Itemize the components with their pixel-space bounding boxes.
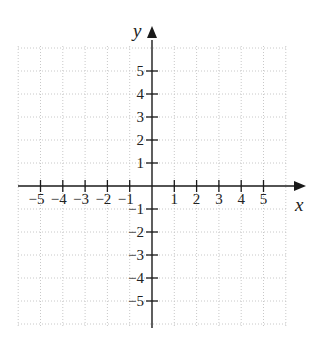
- y-tick-label: 2: [137, 132, 145, 148]
- x-tick-label: −4: [51, 191, 67, 207]
- y-axis-arrow-icon: [147, 26, 157, 38]
- y-tick-label: 3: [137, 109, 145, 125]
- y-tick-label: 5: [137, 63, 145, 79]
- coordinate-plane: −5−4−3−2−11234554321−1−2−3−4−5 x y: [0, 0, 321, 352]
- x-axis-arrow-icon: [294, 181, 306, 191]
- x-tick-label: −5: [29, 191, 45, 207]
- y-tick-label: −3: [128, 247, 144, 263]
- x-tick-label: −3: [73, 191, 89, 207]
- x-tick-label: 5: [260, 191, 268, 207]
- x-tick-label: −2: [95, 191, 111, 207]
- y-tick-label: −2: [128, 224, 144, 240]
- y-tick-label: −5: [128, 293, 144, 309]
- x-tick-label: 2: [193, 191, 201, 207]
- y-tick-label: 4: [137, 86, 145, 102]
- y-tick-label: −4: [128, 270, 144, 286]
- x-tick-label: 4: [237, 191, 245, 207]
- y-axis-label: y: [131, 20, 142, 41]
- x-tick-label: 3: [215, 191, 223, 207]
- x-tick-label: 1: [171, 191, 179, 207]
- y-tick-label: 1: [137, 155, 145, 171]
- y-tick-label: −1: [128, 201, 144, 217]
- x-axis-label: x: [294, 194, 304, 215]
